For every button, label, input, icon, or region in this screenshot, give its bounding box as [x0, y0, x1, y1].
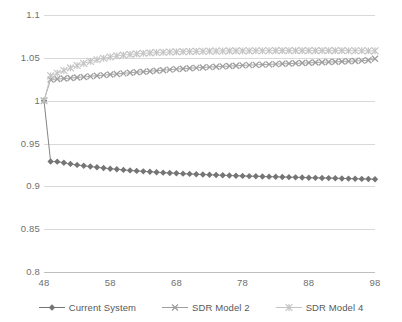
- data-point-marker: [81, 163, 87, 169]
- data-point-marker: [306, 174, 312, 180]
- data-point-marker: [193, 171, 199, 177]
- data-point-marker: [266, 173, 272, 179]
- y-tick-label: 1: [35, 96, 40, 106]
- data-point-marker: [213, 172, 219, 178]
- data-point-marker: [286, 174, 292, 180]
- data-point-marker: [100, 55, 107, 62]
- y-axis-labels: 0.80.850.90.9511.051.1: [0, 0, 40, 322]
- data-point-marker: [233, 173, 239, 179]
- series-layer: [44, 15, 375, 272]
- data-point-marker: [206, 172, 212, 178]
- data-point-marker: [127, 167, 133, 173]
- data-point-marker: [147, 169, 153, 175]
- data-point-marker: [292, 174, 298, 180]
- data-point-marker: [47, 72, 54, 79]
- legend-label: SDR Model 2: [192, 302, 250, 313]
- data-point-marker: [94, 56, 101, 63]
- x-tick-label: 98: [370, 277, 381, 288]
- y-tick-label: 1.1: [26, 10, 40, 20]
- x-tick-label: 78: [237, 277, 248, 288]
- y-tick-label: 0.9: [26, 181, 40, 191]
- data-point-marker: [352, 176, 358, 182]
- legend-item-2[interactable]: SDR Model 2: [162, 302, 250, 313]
- y-tick-label: 0.8: [26, 267, 40, 277]
- data-point-marker: [325, 175, 331, 181]
- data-point-marker: [133, 168, 139, 174]
- data-point-marker: [47, 158, 53, 164]
- data-point-marker: [312, 175, 318, 181]
- x-tick-label: 88: [303, 277, 314, 288]
- data-point-marker: [167, 170, 173, 176]
- series-line: [44, 59, 375, 101]
- legend-label: Current System: [69, 302, 136, 313]
- data-point-marker: [372, 176, 378, 182]
- data-point-marker: [61, 160, 67, 166]
- data-point-marker: [153, 169, 159, 175]
- data-point-marker: [279, 174, 285, 180]
- data-point-marker: [239, 173, 245, 179]
- data-point-marker: [345, 175, 351, 181]
- data-point-marker: [246, 173, 252, 179]
- data-point-marker: [180, 170, 186, 176]
- data-point-marker: [332, 175, 338, 181]
- chart-legend: Current SystemSDR Model 2SDR Model 4: [0, 298, 402, 316]
- data-point-marker: [74, 62, 81, 69]
- data-point-marker: [87, 163, 93, 169]
- legend-marker-asterisk-icon: [276, 302, 302, 313]
- data-point-marker: [319, 175, 325, 181]
- data-point-marker: [173, 170, 179, 176]
- legend-item-1[interactable]: Current System: [39, 302, 136, 313]
- legend-marker-x-icon: [162, 302, 188, 313]
- data-point-marker: [54, 70, 61, 77]
- x-tick-label: 68: [171, 277, 182, 288]
- data-point-marker: [80, 60, 87, 67]
- legend-marker-diamond-icon: [39, 302, 65, 313]
- gridline-y: [44, 272, 375, 273]
- data-point-marker: [339, 175, 345, 181]
- data-point-marker: [186, 171, 192, 177]
- data-point-marker: [220, 172, 226, 178]
- data-point-marker: [114, 166, 120, 172]
- data-point-marker: [120, 167, 126, 173]
- data-point-marker: [87, 58, 94, 65]
- data-point-marker: [200, 171, 206, 177]
- data-point-marker: [67, 65, 74, 72]
- legend-item-3[interactable]: SDR Model 4: [276, 302, 364, 313]
- data-point-marker: [94, 164, 100, 170]
- y-tick-label: 1.05: [21, 53, 40, 63]
- plot-area: [44, 15, 375, 272]
- data-point-marker: [48, 304, 54, 310]
- x-axis-labels: 485868788898: [44, 277, 375, 291]
- data-point-marker: [160, 169, 166, 175]
- data-point-marker: [67, 161, 73, 167]
- data-point-marker: [107, 165, 113, 171]
- x-tick-label: 58: [105, 277, 116, 288]
- data-point-marker: [259, 173, 265, 179]
- data-point-marker: [226, 172, 232, 178]
- y-tick-label: 0.85: [21, 224, 40, 234]
- data-point-marker: [54, 158, 60, 164]
- data-point-marker: [273, 174, 279, 180]
- line-chart: 0.80.850.90.9511.051.1 485868788898 Curr…: [0, 0, 402, 322]
- data-point-marker: [299, 174, 305, 180]
- data-point-marker: [359, 176, 365, 182]
- data-point-marker: [365, 176, 371, 182]
- data-point-marker: [60, 67, 67, 74]
- y-tick-label: 0.95: [21, 139, 40, 149]
- series-1: [41, 97, 378, 182]
- x-tick-label: 48: [39, 277, 50, 288]
- data-point-marker: [74, 162, 80, 168]
- series-line: [44, 101, 375, 180]
- legend-label: SDR Model 4: [306, 302, 364, 313]
- data-point-marker: [372, 56, 378, 62]
- data-point-marker: [253, 173, 259, 179]
- data-point-marker: [100, 165, 106, 171]
- data-point-marker: [140, 168, 146, 174]
